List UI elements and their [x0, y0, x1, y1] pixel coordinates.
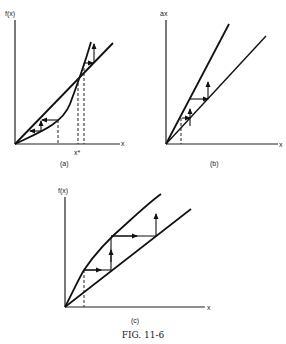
line-ax-steep — [166, 24, 229, 144]
line-y-equals-x — [166, 36, 266, 144]
x-axis-label: x — [207, 304, 211, 311]
panel-c: f(x) x (c) — [58, 187, 211, 325]
curve-f-x — [65, 194, 161, 307]
y-axis-label: f(x) — [5, 10, 15, 18]
x-star-label: x* — [74, 149, 81, 156]
panel-label: (c) — [131, 317, 139, 325]
panel-b: ax x (b) — [160, 10, 283, 168]
panel-label: (b) — [210, 160, 219, 168]
x-axis-label: x — [279, 141, 283, 148]
panel-a: f(x) x x* (a) — [5, 10, 125, 168]
x-axis-label: x — [121, 140, 125, 147]
y-axis-label: ax — [160, 10, 168, 17]
line-y-equals-x — [15, 43, 113, 144]
curve-f-x — [15, 42, 91, 144]
figure-11-6: f(x) x x* (a) ax x (b) — [0, 0, 286, 344]
figure-caption: FIG. 11-6 — [122, 330, 165, 340]
panel-label: (a) — [60, 160, 69, 168]
y-axis-label: f(x) — [58, 187, 68, 195]
